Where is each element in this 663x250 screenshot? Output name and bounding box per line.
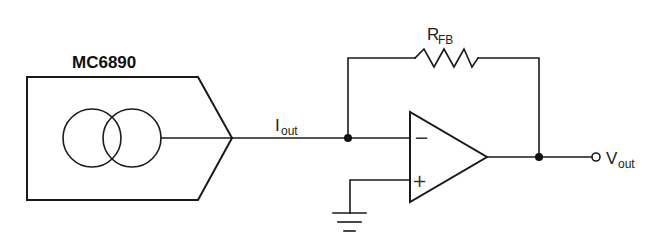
svg-text:out: out [618,157,635,171]
inverting-pin-label: − [414,127,429,148]
chip-label: MC6890 [72,53,136,72]
feedback-wire-right [478,58,539,157]
output-terminal-icon [592,153,600,161]
svg-text:I: I [275,116,280,135]
svg-text:out: out [281,124,298,138]
junction-dot-output [535,153,543,161]
svg-text:V: V [606,149,618,168]
rfb-label: R FB [427,25,453,47]
ground-wire [350,180,410,213]
circuit-diagram: MC6890 I out R FB − + V out [0,0,663,250]
iout-label: I out [275,116,298,138]
ground-icon [333,213,366,231]
noninverting-pin-label: + [412,170,427,191]
current-source-icon [63,109,161,167]
svg-text:FB: FB [438,33,453,47]
vout-label: V out [606,149,635,171]
feedback-resistor-icon [415,49,478,67]
feedback-wire-left [348,58,415,138]
